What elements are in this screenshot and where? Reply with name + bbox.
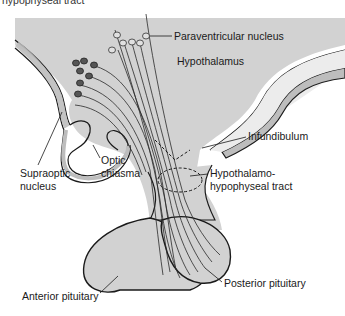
label-anterior-pituitary: Anterior pituitary: [22, 290, 98, 302]
label-optic-chiasma-1: Optic: [101, 154, 126, 166]
label-posterior-pituitary: Posterior pituitary: [224, 277, 306, 289]
pituitary-diagram: [0, 0, 345, 316]
label-supraoptic-nucleus-2: nucleus: [20, 180, 56, 192]
label-hypothalamus: Hypothalamus: [177, 55, 244, 67]
label-tract-2: hypophyseal tract: [210, 180, 292, 192]
label-optic-chiasma-2: chiasma: [101, 167, 140, 179]
label-infundibulum: Infundibulum: [248, 130, 308, 142]
label-paraventricular-nucleus: Paraventricular nucleus: [174, 30, 284, 42]
label-supraoptic-nucleus-1: Supraoptic: [20, 167, 70, 179]
label-tract-1: Hypothalamo-: [210, 167, 275, 179]
